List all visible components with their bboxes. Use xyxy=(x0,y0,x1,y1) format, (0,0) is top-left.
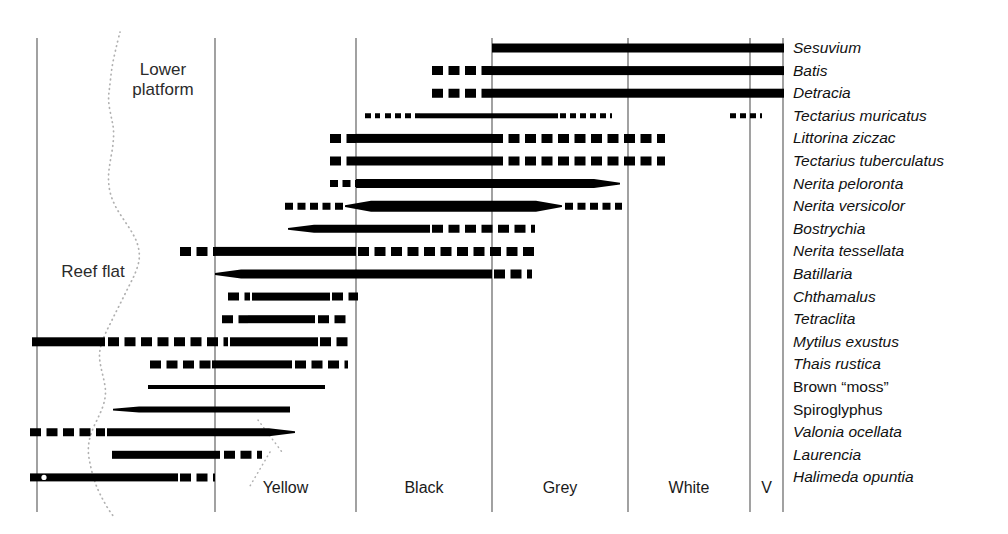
region-label-lower-platform: Lower platform xyxy=(132,60,193,99)
bar-segment-tapered xyxy=(113,407,290,413)
species-label: Sesuvium xyxy=(793,39,861,57)
species-bar-row xyxy=(285,201,622,212)
species-bar-row xyxy=(228,293,358,301)
bar-segment-solid xyxy=(248,315,315,323)
zone-label-black: Black xyxy=(356,479,492,497)
bar-segment-tapered xyxy=(345,201,562,212)
species-label: Littorina ziczac xyxy=(793,129,896,147)
zone-label-v: V xyxy=(750,479,783,497)
bar-segment-solid xyxy=(230,337,318,346)
zone-label-white: White xyxy=(628,479,750,497)
bar-segment-tapered xyxy=(215,270,492,279)
species-bar-row xyxy=(30,473,215,481)
zone-label-yellow: Yellow xyxy=(215,479,356,497)
species-label: Valonia ocellata xyxy=(793,423,902,441)
species-bar-row xyxy=(222,315,348,323)
species-label: Chthamalus xyxy=(793,288,876,306)
bar-segment-solid xyxy=(420,113,558,118)
species-bar-row xyxy=(32,337,348,346)
species-label: Thais rustica xyxy=(793,355,881,373)
species-label: Brown “moss” xyxy=(793,378,889,396)
species-label: Nerita peloronta xyxy=(793,175,903,193)
bar-segment-solid xyxy=(356,134,492,143)
species-bars-layer xyxy=(30,44,784,482)
species-label: Nerita tessellata xyxy=(793,242,904,260)
bar-segment-solid xyxy=(30,473,178,481)
species-label: Laurencia xyxy=(793,446,861,464)
species-label: Batis xyxy=(793,62,827,80)
bar-segment-solid xyxy=(492,44,784,53)
species-label: Batillaria xyxy=(793,265,852,283)
species-bar-row xyxy=(215,270,532,279)
bar-segment-tapered xyxy=(107,428,295,436)
species-label: Nerita versicolor xyxy=(793,197,905,215)
species-bar-row xyxy=(330,134,665,143)
bar-segment-solid xyxy=(245,385,325,389)
species-label: Tectarius muricatus xyxy=(793,107,927,125)
bar-segment-tapered xyxy=(356,179,620,188)
bar-segment-solid xyxy=(32,337,105,346)
bar-segment-solid xyxy=(112,451,220,459)
bar-segment-solid xyxy=(212,360,292,368)
species-label: Bostrychia xyxy=(793,220,865,238)
species-label: Detracia xyxy=(793,84,851,102)
species-bar-row xyxy=(180,247,535,256)
species-label: Tectarius tuberculatus xyxy=(793,152,944,170)
species-bar-row xyxy=(148,385,325,389)
species-bar-row xyxy=(330,179,620,188)
species-bar-row xyxy=(365,113,762,118)
bar-segment-solid xyxy=(252,293,330,301)
species-label: Tetraclita xyxy=(793,310,855,328)
bar-segment-tapered xyxy=(288,225,430,233)
zone-label-grey: Grey xyxy=(492,479,628,497)
figure-root: Lower platformReef flat YellowBlackGreyW… xyxy=(0,0,1008,534)
species-bar-row xyxy=(113,407,290,413)
species-bar-row xyxy=(432,89,784,98)
species-bar-row xyxy=(330,157,665,166)
species-label: Halimeda opuntia xyxy=(793,468,914,486)
bar-segment-solid xyxy=(215,247,356,256)
species-bar-row xyxy=(150,360,348,368)
bar-segment-solid xyxy=(492,66,784,75)
species-bar-row xyxy=(432,66,784,75)
species-bar-row xyxy=(30,428,295,436)
species-label: Spiroglyphus xyxy=(793,401,883,419)
species-label: Mytilus exustus xyxy=(793,333,899,351)
species-bar-row xyxy=(112,451,262,459)
region-label-reef-flat: Reef flat xyxy=(61,262,124,282)
bar-segment-solid xyxy=(356,157,492,166)
species-bar-row xyxy=(492,44,784,53)
species-bar-row xyxy=(288,225,535,233)
bar-marker-dot xyxy=(41,475,46,480)
bar-segment-solid xyxy=(492,89,784,98)
